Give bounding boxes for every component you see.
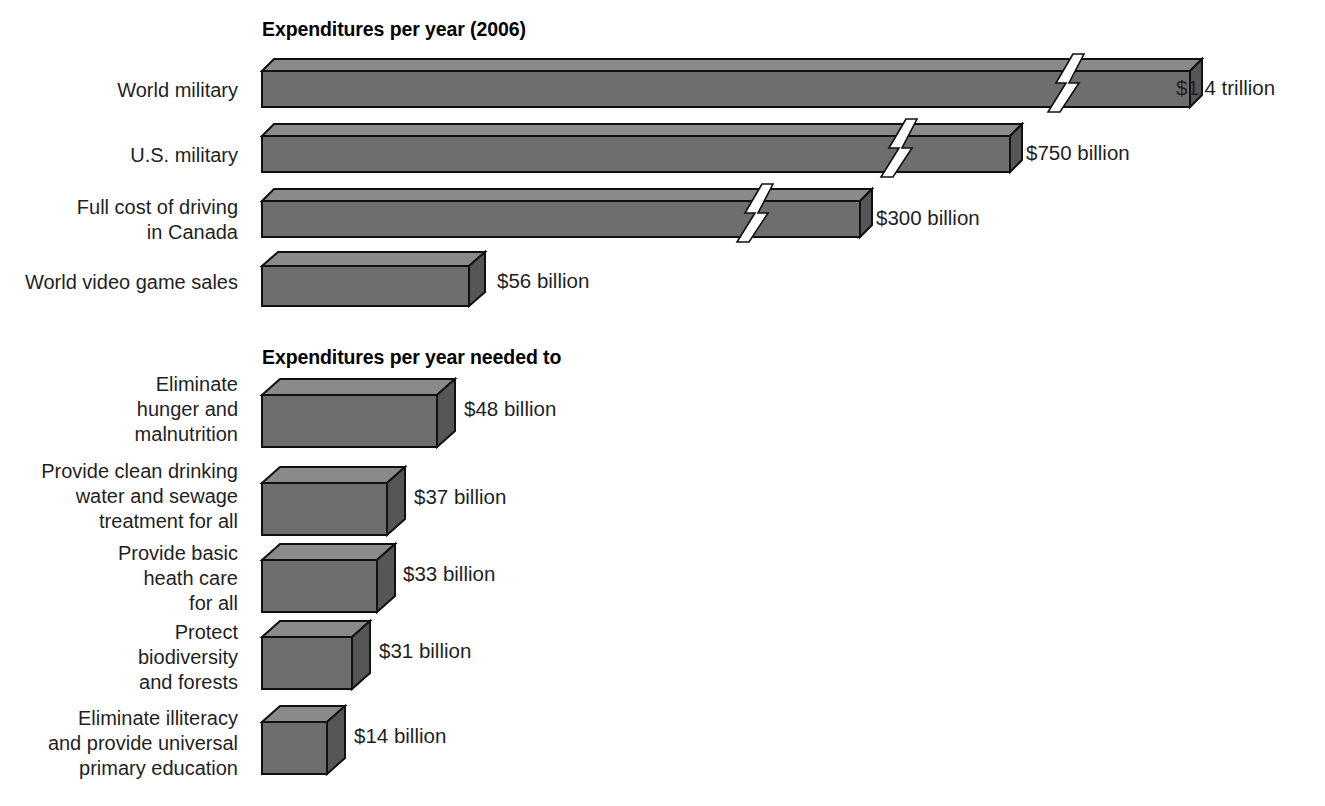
bar-us-military — [250, 117, 1030, 179]
value-label-us-military: $750 billion — [1026, 143, 1130, 164]
value-label-full-cost-driving-canada: $300 billion — [876, 208, 980, 229]
row-label-clean-drinking-water: Provide clean drinking water and sewage … — [10, 459, 238, 534]
row-label-us-military: U.S. military — [10, 143, 238, 168]
bar-full-cost-driving-canada — [250, 182, 880, 244]
row-label-protect-biodiversity: Protect biodiversity and forests — [10, 620, 238, 695]
bar-world-video-game-sales — [250, 245, 500, 311]
bar-protect-biodiversity — [250, 615, 375, 697]
bar-basic-health-care — [250, 538, 400, 620]
value-label-protect-biodiversity: $31 billion — [379, 641, 471, 662]
group-title-expenditures-2006: Expenditures per year (2006) — [262, 18, 526, 41]
row-label-eliminate-hunger: Eliminate hunger and malnutrition — [10, 372, 238, 447]
bar-clean-drinking-water — [250, 461, 410, 543]
value-label-world-video-game-sales: $56 billion — [497, 271, 589, 292]
value-label-eliminate-illiteracy: $14 billion — [354, 726, 446, 747]
group-title-expenditures-needed: Expenditures per year needed to — [262, 346, 561, 369]
bar-eliminate-hunger — [250, 373, 460, 455]
row-label-full-cost-driving-canada: Full cost of driving in Canada — [10, 195, 238, 245]
row-label-world-military: World military — [10, 78, 238, 103]
bar-world-military — [250, 52, 1210, 114]
bar-eliminate-illiteracy — [250, 700, 350, 782]
value-label-clean-drinking-water: $37 billion — [414, 487, 506, 508]
row-label-eliminate-illiteracy: Eliminate illiteracy and provide univers… — [10, 706, 238, 781]
row-label-basic-health-care: Provide basic heath care for all — [10, 541, 238, 616]
value-label-world-military: $1.4 trillion — [1176, 78, 1275, 99]
chart-canvas: Expenditures per year (2006) World milit… — [0, 0, 1325, 806]
row-label-world-video-game-sales: World video game sales — [10, 270, 238, 295]
value-label-basic-health-care: $33 billion — [403, 564, 495, 585]
value-label-eliminate-hunger: $48 billion — [464, 399, 556, 420]
